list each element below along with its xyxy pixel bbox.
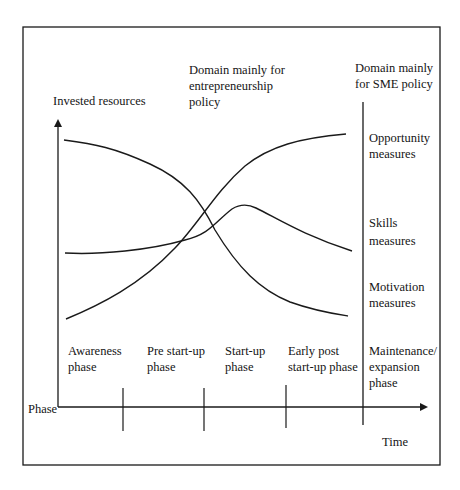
motivation-measures-label: Motivation measures	[369, 279, 425, 311]
phase-maintenance-label: Maintenance/ expansion phase	[369, 343, 437, 391]
opportunity-curve	[66, 134, 346, 319]
opportunity-measures-label: Opportunity measures	[369, 130, 430, 162]
phase-early-post-startup-label: Early post start-up phase	[288, 343, 358, 375]
phase-pre-startup-label: Pre start-up phase	[147, 343, 205, 375]
skills-curve	[65, 205, 352, 253]
domain-entrepreneurship-label: Domain mainly for entrepreneurship polic…	[189, 62, 285, 110]
diagram-canvas: Invested resources Phase Time Domain mai…	[0, 0, 460, 490]
skills-measures-label: Skills measures	[369, 215, 416, 249]
domain-sme-label: Domain mainly for SME policy	[355, 60, 433, 92]
motivation-curve	[64, 140, 348, 316]
y-axis-label: Invested resources	[53, 93, 146, 109]
phase-axis-label: Phase	[28, 401, 57, 417]
phase-startup-label: Start-up phase	[225, 343, 265, 375]
phase-awareness-label: Awareness phase	[68, 343, 122, 375]
x-axis-label: Time	[382, 434, 408, 450]
